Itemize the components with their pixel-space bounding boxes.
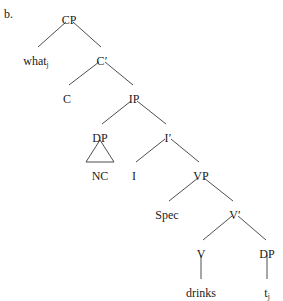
- tree-edge-cbar-c: [69, 62, 99, 85]
- tree-node-drinks-text: drinks: [186, 286, 216, 300]
- tree-node-what-text: what: [23, 54, 46, 68]
- tree-edge-ip-dp1: [102, 101, 131, 124]
- tree-edge-ibar-i: [136, 139, 165, 162]
- syntax-tree-figure: b. CPwhatjC′CIPDPI′NCIVPSpecV′VDPdrinkst…: [0, 0, 283, 301]
- tree-node-v: V: [197, 248, 206, 260]
- tree-node-vbar-text: V′: [229, 208, 241, 222]
- tree-node-ibar: I′: [164, 132, 171, 144]
- tree-node-v-text: V: [197, 247, 206, 261]
- tree-edge-cbar-ip: [105, 62, 133, 85]
- tree-edge-cp-cbar: [73, 22, 101, 47]
- tree-node-cbar-text: C′: [96, 54, 107, 68]
- tree-node-spec-text: Spec: [155, 208, 178, 222]
- tree-node-ibar-text: I′: [164, 131, 171, 145]
- tree-node-trace: tj: [264, 287, 269, 299]
- tree-node-i: I: [132, 170, 136, 182]
- tree-node-what: whatj: [23, 55, 48, 67]
- tree-node-dp2-text: DP: [259, 247, 274, 261]
- tree-node-cp-text: CP: [62, 13, 77, 27]
- tree-node-vp-text: VP: [193, 169, 208, 183]
- tree-node-c: C: [63, 93, 71, 105]
- edge-group: [38, 22, 267, 279]
- tree-node-cbar: C′: [96, 55, 107, 67]
- tree-node-dp1-text: DP: [92, 131, 107, 145]
- tree-branch-lines: [0, 0, 283, 301]
- tree-node-vbar: V′: [229, 209, 241, 221]
- tree-node-drinks: drinks: [186, 287, 216, 299]
- tree-node-dp2: DP: [259, 248, 274, 260]
- tree-edge-ibar-vp: [171, 139, 199, 162]
- tree-edge-vbar-v: [203, 216, 232, 240]
- tree-node-dp1: DP: [92, 132, 107, 144]
- tree-node-i-text: I: [132, 169, 136, 183]
- tree-node-vp: VP: [193, 170, 208, 182]
- tree-node-ip-text: IP: [129, 92, 140, 106]
- tree-node-spec: Spec: [155, 209, 178, 221]
- tree-node-ip: IP: [129, 93, 140, 105]
- tree-node-c-text: C: [63, 92, 71, 106]
- tree-node-cp: CP: [62, 14, 77, 26]
- tree-edge-vbar-dp2: [238, 216, 266, 240]
- tree-node-nc-text: NC: [92, 169, 109, 183]
- tree-edge-ip-ibar: [137, 101, 166, 124]
- tree-node-nc: NC: [92, 170, 109, 182]
